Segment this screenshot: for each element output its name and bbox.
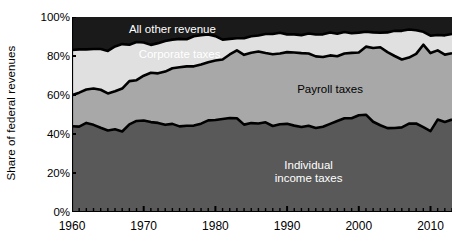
area-band xyxy=(72,115,452,212)
x-tick-label: 1970 xyxy=(130,219,157,233)
x-tick-label: 2000 xyxy=(345,219,372,233)
plot-area xyxy=(72,17,452,212)
y-axis-tick-labels: 100%80%60%40%20%0% xyxy=(22,0,70,250)
plot-svg xyxy=(72,17,452,212)
y-tick-label: 100% xyxy=(41,11,70,23)
y-tick-label: 80% xyxy=(47,50,70,62)
x-tick-label: 2010 xyxy=(417,219,444,233)
y-tick-label: 20% xyxy=(47,167,70,179)
y-axis-title: Share of federal revenues xyxy=(5,45,17,180)
x-tick-label: 1980 xyxy=(202,219,229,233)
y-tick-label: 60% xyxy=(47,89,70,101)
y-tick-label: 0% xyxy=(53,206,70,218)
y-axis-title-container: Share of federal revenues xyxy=(0,0,22,225)
x-tick-label: 1960 xyxy=(59,219,86,233)
y-tick-label: 40% xyxy=(47,128,70,140)
x-tick-label: 1990 xyxy=(274,219,301,233)
stacked-area-chart: Share of federal revenues 100%80%60%40%2… xyxy=(0,0,464,250)
